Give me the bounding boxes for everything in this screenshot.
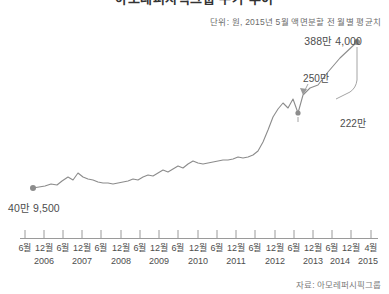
x-year-label: 2012 <box>265 256 285 266</box>
x-axis-month-labels: 6월12월6월12월6월12월6월12월6월12월6월12월6월12월6월12월… <box>0 241 389 257</box>
x-tick-label: 12월 <box>342 241 360 254</box>
x-tick-label: 6월 <box>171 241 184 254</box>
start-value-label: 40만 9,500 <box>8 200 60 215</box>
x-tick-label: 6월 <box>56 241 69 254</box>
x-tick-label: 12월 <box>304 241 322 254</box>
peak-value-label: 250만 <box>303 70 329 85</box>
x-tick-label: 6월 <box>94 241 107 254</box>
x-tick-label: 12월 <box>73 241 91 254</box>
x-year-label: 2014 <box>330 256 350 266</box>
x-axis-year-labels: 2006200720082009201020112012201320142015 <box>0 256 389 272</box>
end-label-leader <box>336 47 357 99</box>
x-tick-label: 12월 <box>112 241 130 254</box>
x-tick-label: 12월 <box>227 241 245 254</box>
x-tick-label: 12월 <box>35 241 53 254</box>
dip-value-label: 222만 <box>340 115 366 130</box>
x-tick-label: 6월 <box>210 241 223 254</box>
x-tick-label: 6월 <box>133 241 146 254</box>
x-year-label: 2015 <box>358 256 378 266</box>
x-tick-label: 6월 <box>287 241 300 254</box>
start-point-marker <box>30 185 36 191</box>
end-value-label: 388만 4,000 <box>304 33 362 48</box>
price-line <box>33 42 357 188</box>
x-axis-ticks <box>25 230 371 238</box>
source-attribution: 자료: 아모레퍼시픽그룹 <box>296 278 381 290</box>
chart-container: 아모레퍼시픽그룹 주가 추이 단위: 원, 2015년 5월 액면분할 전 월별… <box>0 0 389 294</box>
x-tick-label: 12월 <box>266 241 284 254</box>
dip-point-marker <box>295 110 300 115</box>
x-tick-label: 6월 <box>18 241 31 254</box>
x-tick-label: 4월 <box>364 241 377 254</box>
x-tick-label: 12월 <box>150 241 168 254</box>
x-tick-label: 12월 <box>189 241 207 254</box>
x-year-label: 2013 <box>303 256 323 266</box>
x-year-label: 2011 <box>226 256 245 266</box>
x-year-label: 2010 <box>188 256 208 266</box>
x-year-label: 2008 <box>111 256 131 266</box>
x-year-label: 2007 <box>72 256 92 266</box>
x-tick-label: 6월 <box>248 241 261 254</box>
x-year-label: 2006 <box>34 256 54 266</box>
x-year-label: 2009 <box>149 256 169 266</box>
x-tick-label: 6월 <box>325 241 338 254</box>
